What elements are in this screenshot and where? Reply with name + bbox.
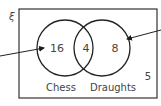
draughts-only-value: 8	[112, 42, 119, 55]
universal-set-symbol: ξ	[8, 11, 15, 22]
draughts-label: Draughts	[90, 82, 136, 93]
chess-label: Chess	[46, 82, 76, 93]
intersection-value: 4	[83, 42, 90, 55]
outside-value: 5	[145, 71, 151, 82]
right-pointer-arrow-icon	[127, 30, 161, 39]
venn-diagram: ξ 16 4 8 Chess Draughts 5	[0, 0, 161, 106]
chess-only-value: 16	[50, 42, 64, 55]
